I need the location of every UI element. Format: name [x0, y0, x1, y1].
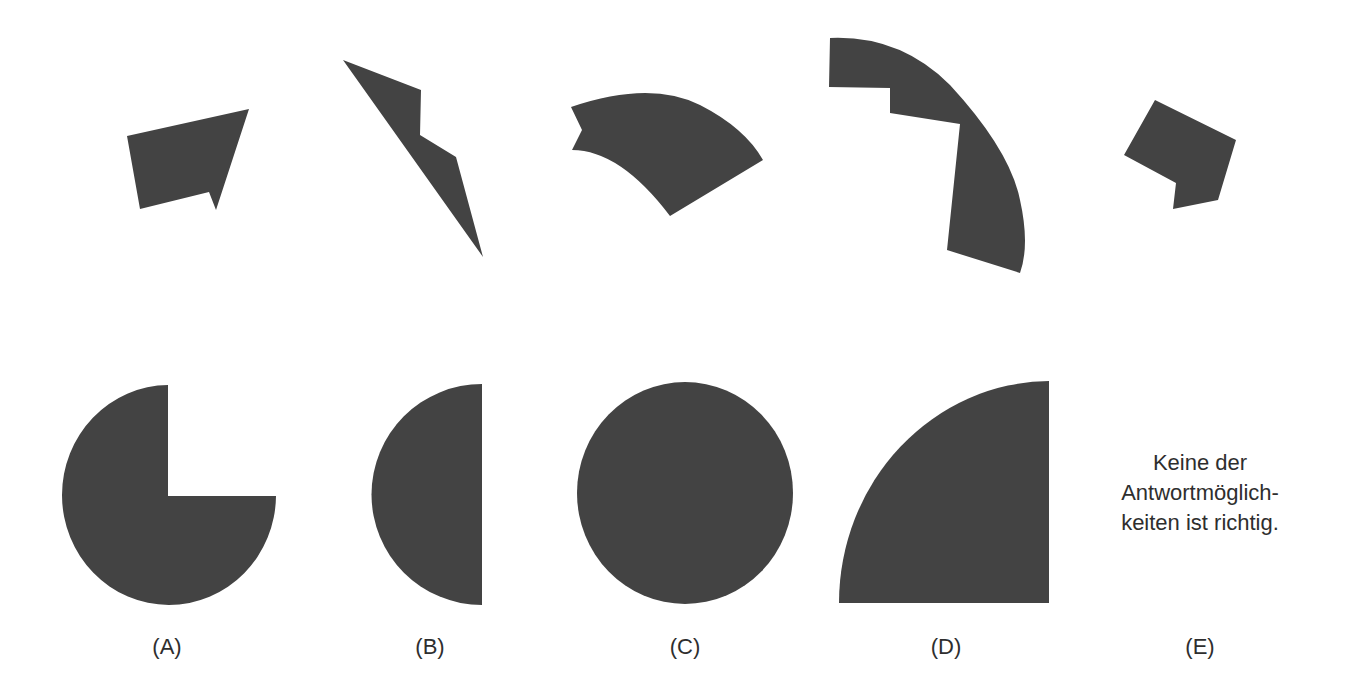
- option-e-text-line2: Antwortmöglich-: [1090, 478, 1310, 508]
- option-a-label: (A): [127, 634, 207, 660]
- piece-circular-sector: [571, 93, 763, 216]
- option-d-quarter-circle: [839, 381, 1049, 603]
- piece-arrow-quadrilateral: [127, 109, 249, 210]
- piece-stepped-arc-band: [829, 38, 1025, 273]
- option-e-text-line1: Keine der: [1090, 448, 1310, 478]
- option-b-label: (B): [390, 634, 470, 660]
- piece-notched-square: [1124, 100, 1236, 209]
- option-e-text-line3: keiten ist richtig.: [1090, 508, 1310, 538]
- puzzle-figure: [0, 0, 1362, 694]
- piece-slanted-zigzag-sliver: [343, 60, 483, 257]
- option-e-text: Keine der Antwortmöglich- keiten ist ric…: [1090, 448, 1310, 538]
- option-c-circle: [577, 382, 793, 604]
- option-c-label: (C): [645, 634, 725, 660]
- option-b-half-circle: [372, 384, 483, 605]
- option-a-three-quarter-circle: [62, 385, 276, 605]
- option-d-label: (D): [906, 634, 986, 660]
- option-e-label: (E): [1160, 634, 1240, 660]
